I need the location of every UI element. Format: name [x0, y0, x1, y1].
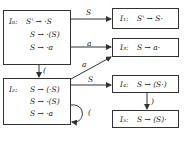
state-i3: I₃: S → a· — [112, 38, 179, 57]
edge-label-i0-i3: a — [87, 40, 91, 48]
edge-label-i2-i3: a — [82, 61, 86, 69]
state-i4-label: I₄: — [120, 81, 129, 89]
state-i2: I₂: S → (·S) S → ·(S) S → ·a — [3, 78, 71, 125]
state-i4: I₄: S → (S·) — [112, 75, 179, 93]
state-i5-label: I₅: — [120, 116, 129, 124]
state-i2-label: I₂: — [9, 86, 18, 94]
state-i4-item: S → (S·) — [137, 81, 167, 89]
state-i0-label: I₀: — [9, 18, 18, 26]
edge-label-i2-i4: S — [88, 76, 93, 84]
state-i0-item: S' → ·S — [26, 18, 52, 26]
edge-label-i0-i1: S — [86, 9, 91, 17]
state-i0: I₀: S' → ·S S → ·(S) S → ·a — [3, 10, 71, 65]
state-i1: I₁: S' → S· — [112, 8, 179, 29]
edge-label-i4-i5: ) — [151, 98, 154, 106]
state-i3-label: I₃: — [120, 44, 129, 52]
state-i3-item: S → a· — [137, 44, 160, 52]
state-i2-item: S → ·a — [30, 110, 53, 118]
state-i0-item: S → ·a — [30, 44, 53, 52]
state-i2-item: S → ·(S) — [30, 98, 60, 106]
state-i1-item: S' → S· — [137, 15, 163, 23]
state-i1-label: I₁: — [120, 15, 129, 23]
state-i5: I₅: S → (S)· — [112, 110, 179, 128]
edge-label-i2-loop: ( — [88, 109, 91, 117]
edge-label-i0-i2: ( — [43, 67, 46, 75]
state-i5-item: S → (S)· — [137, 116, 167, 124]
state-i2-item: S → (·S) — [30, 86, 60, 94]
state-i0-item: S → ·(S) — [30, 31, 60, 39]
